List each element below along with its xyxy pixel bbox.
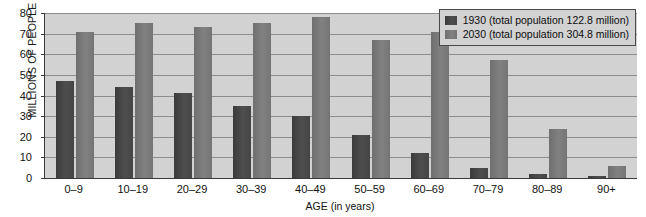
- y-axis-tick-40: 40: [20, 90, 32, 102]
- chart-legend: 1930 (total population 122.8 million) 20…: [439, 9, 636, 46]
- x-axis-tick-labels: 0–910–1920–2930–3940–4950–5960–6970–7980…: [44, 183, 636, 199]
- y-axis-tick-50: 50: [20, 69, 32, 81]
- bar-1930-7079: [470, 168, 488, 178]
- bar-group: [223, 13, 282, 178]
- legend-label-2030: 2030 (total population 304.8 million): [463, 28, 629, 40]
- x-axis-tick-label: 90+: [597, 183, 616, 195]
- y-axis-tick-70: 70: [20, 28, 32, 40]
- bar-2030-3039: [253, 23, 271, 178]
- y-tick-mark-10: [41, 157, 45, 158]
- bar-group: [163, 13, 222, 178]
- x-axis-tick-label: 70–79: [473, 183, 504, 195]
- bar-group: [341, 13, 400, 178]
- bar-2030-8089: [549, 129, 567, 179]
- y-tick-mark-0: [41, 178, 45, 179]
- bar-1930-5059: [352, 135, 370, 178]
- legend-label-1930: 1930 (total population 122.8 million): [463, 14, 629, 26]
- y-axis-tick-80: 80: [20, 7, 32, 19]
- bar-1930-3039: [233, 106, 251, 178]
- x-axis-tick-label: 60–69: [414, 183, 445, 195]
- bar-2030-7079: [490, 60, 508, 178]
- x-axis-tick-label: 0–9: [64, 183, 82, 195]
- bar-2030-90+: [608, 166, 626, 178]
- bar-group: [104, 13, 163, 178]
- y-tick-mark-20: [41, 137, 45, 138]
- population-by-age-bar-chart: MILLIONS OF PEOPLE 80706050403020100 0–9…: [0, 0, 646, 217]
- bar-group: [45, 13, 104, 178]
- x-axis-title: AGE (in years): [44, 200, 636, 212]
- x-axis-tick-label: 50–59: [354, 183, 385, 195]
- y-axis-tick-0: 0: [26, 172, 32, 184]
- y-axis-tick-labels: 80706050403020100: [0, 13, 38, 178]
- y-tick-mark-30: [41, 116, 45, 117]
- bar-2030-4049: [312, 17, 330, 178]
- legend-item-2030: 2030 (total population 304.8 million): [445, 27, 629, 41]
- x-axis-tick-label: 30–39: [236, 183, 267, 195]
- x-axis-tick-label: 10–19: [118, 183, 149, 195]
- bar-1930-09: [56, 81, 74, 178]
- legend-swatch-2030-icon: [445, 30, 457, 39]
- y-tick-mark-80: [41, 13, 45, 14]
- bar-2030-6069: [431, 32, 449, 178]
- x-axis-tick-label: 20–29: [177, 183, 208, 195]
- y-tick-mark-60: [41, 54, 45, 55]
- legend-item-1930: 1930 (total population 122.8 million): [445, 13, 629, 27]
- bar-1930-4049: [292, 116, 310, 178]
- bar-1930-8089: [529, 174, 547, 178]
- bar-1930-1019: [115, 87, 133, 178]
- y-tick-mark-50: [41, 75, 45, 76]
- bar-2030-5059: [372, 40, 390, 178]
- bar-2030-2029: [194, 27, 212, 178]
- bar-1930-6069: [411, 153, 429, 178]
- bar-2030-1019: [135, 23, 153, 178]
- legend-swatch-1930-icon: [445, 16, 457, 25]
- x-axis-tick-label: 80–89: [532, 183, 563, 195]
- y-axis-tick-20: 20: [20, 131, 32, 143]
- y-axis-tick-10: 10: [20, 151, 32, 163]
- y-tick-mark-70: [41, 34, 45, 35]
- bar-group: [282, 13, 341, 178]
- bar-2030-09: [76, 32, 94, 178]
- bar-1930-2029: [174, 93, 192, 178]
- y-tick-mark-40: [41, 96, 45, 97]
- x-axis-tick-label: 40–49: [295, 183, 326, 195]
- y-axis-tick-60: 60: [20, 48, 32, 60]
- bar-1930-90+: [588, 176, 606, 178]
- y-axis-tick-30: 30: [20, 110, 32, 122]
